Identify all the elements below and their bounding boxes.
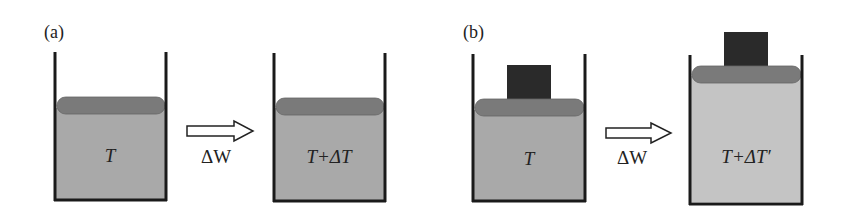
temperature-label: T+ΔT (306, 146, 353, 167)
container-b-after: T+ΔT′ (689, 32, 803, 205)
hollow-right-arrow-icon (187, 121, 253, 141)
piston (57, 97, 165, 114)
process-arrow-a: ΔW (187, 121, 253, 167)
hollow-right-arrow-icon (606, 123, 671, 143)
container-a-after: T+ΔT (273, 53, 386, 202)
temperature-label: T+ΔT′ (721, 146, 771, 167)
gas-region (691, 76, 801, 202)
container-b-before: T (472, 54, 586, 202)
temperature-label: T (524, 148, 536, 169)
container-a-before: T (54, 52, 167, 201)
panel-b-label: (b) (463, 22, 484, 43)
piston (276, 98, 384, 115)
panel-a-label: (a) (44, 22, 64, 43)
work-label: ΔW (201, 146, 231, 167)
piston (475, 99, 584, 116)
work-label: ΔW (617, 147, 647, 168)
weight-block (507, 65, 551, 100)
thermo-diagram: (a) T ΔW T+ΔT (b) T ΔW (0, 0, 843, 224)
weight-block (724, 32, 768, 67)
piston (692, 66, 801, 83)
process-arrow-b: ΔW (606, 123, 671, 168)
temperature-label: T (105, 145, 117, 166)
